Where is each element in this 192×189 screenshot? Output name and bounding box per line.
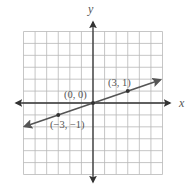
coordinate-graph: x y (−3, −1) (0, 0) (3, 1) [0,0,192,189]
y-axis-label: y [87,2,94,16]
point-label-3-1: (3, 1) [108,77,131,89]
point-label-origin: (0, 0) [64,89,87,101]
point-label-neg3-neg1: (−3, −1) [50,119,85,131]
x-axis-label: x [178,96,185,110]
plotted-point [126,89,130,93]
plotted-point [91,101,95,105]
plotted-point [56,113,60,117]
